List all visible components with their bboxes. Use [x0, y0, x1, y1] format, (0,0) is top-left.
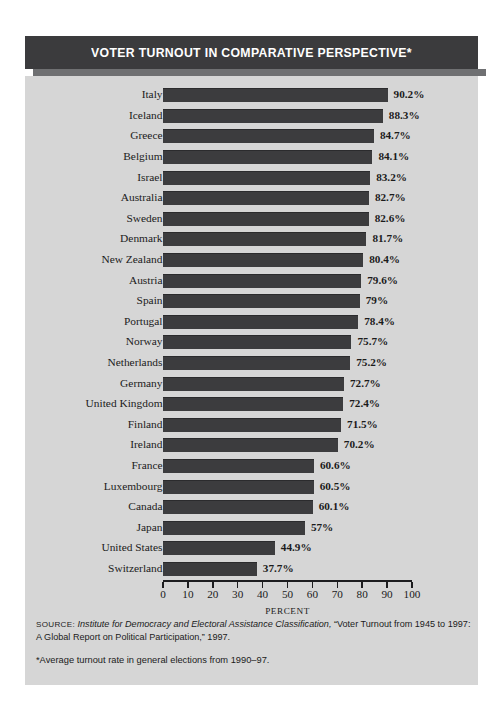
bar-value-label: 84.1% — [378, 151, 409, 162]
bar — [163, 438, 338, 452]
category-label: Finland — [128, 419, 163, 430]
bar-value-label: 72.4% — [349, 399, 380, 410]
bar-row: Finland71.5% — [25, 415, 478, 436]
bar-row: Australia82.7% — [25, 188, 478, 209]
source-publication: Institute for Democracy and Electoral As… — [78, 619, 332, 629]
title-banner-shadow — [33, 69, 486, 76]
category-label: Ireland — [130, 440, 162, 451]
category-label: Iceland — [129, 110, 163, 121]
bar-row: Netherlands75.2% — [25, 353, 478, 374]
category-label: Australia — [121, 193, 163, 204]
bar-value-label: 81.7% — [372, 234, 403, 245]
bar-row: Austria79.6% — [25, 270, 478, 291]
bar-value-label: 82.6% — [375, 213, 406, 224]
bar — [163, 171, 370, 185]
bar — [163, 191, 369, 205]
bar-value-label: 44.9% — [281, 543, 312, 554]
bar-row: Sweden82.6% — [25, 209, 478, 230]
axis-tick-label: 80 — [357, 589, 368, 600]
bar-value-label: 84.7% — [380, 131, 411, 142]
bar-row: Canada60.1% — [25, 497, 478, 518]
bar-row: Germany72.7% — [25, 373, 478, 394]
axis-tick-label: 100 — [404, 589, 421, 600]
axis-tick-label: 70 — [332, 589, 343, 600]
category-label: Greece — [130, 131, 162, 142]
bar-row: France60.6% — [25, 456, 478, 477]
axis-tick-label: 20 — [207, 589, 218, 600]
category-label: Portugal — [124, 316, 163, 327]
category-label: Belgium — [123, 151, 162, 162]
footnote: *Average turnout rate in general electio… — [36, 654, 474, 667]
axis-tick-label: 30 — [232, 589, 243, 600]
category-label: Netherlands — [107, 357, 162, 368]
bar-row: Spain79% — [25, 291, 478, 312]
bar — [163, 500, 313, 514]
bar — [163, 480, 314, 494]
bar — [163, 294, 360, 308]
category-label: Luxembourg — [104, 481, 163, 492]
bar — [163, 541, 275, 555]
category-label: Norway — [126, 337, 163, 348]
bar — [163, 212, 369, 226]
notes-block: SOURCE: Institute for Democracy and Elec… — [36, 618, 474, 668]
bar-value-label: 71.5% — [347, 419, 378, 430]
plot-area: Italy90.2%Iceland88.3%Greece84.7%Belgium… — [25, 76, 478, 685]
category-label: Spain — [137, 296, 163, 307]
axis-tick-label: 90 — [382, 589, 393, 600]
bar-row: Iceland88.3% — [25, 106, 478, 127]
bar — [163, 232, 366, 246]
bar — [163, 356, 350, 370]
figure-voter-turnout: VOTER TURNOUT IN COMPARATIVE PERSPECTIVE… — [0, 0, 502, 710]
bar-value-label: 70.2% — [344, 440, 375, 451]
bar — [163, 562, 257, 576]
axis-tick-label: 40 — [257, 589, 268, 600]
bar-value-label: 60.6% — [320, 460, 351, 471]
category-label: Italy — [142, 90, 163, 101]
category-label: France — [132, 460, 163, 471]
bar-value-label: 80.4% — [369, 254, 400, 265]
bar — [163, 129, 374, 143]
bar-value-label: 75.7% — [357, 337, 388, 348]
axis-tick-label: 10 — [182, 589, 193, 600]
axis-tick-label: 60 — [307, 589, 318, 600]
bar-row: Portugal78.4% — [25, 312, 478, 333]
bar-row: Luxembourg60.5% — [25, 476, 478, 497]
bar-row: Belgium84.1% — [25, 147, 478, 168]
bar-value-label: 90.2% — [394, 90, 425, 101]
category-label: United States — [101, 543, 162, 554]
bar-value-label: 60.1% — [319, 502, 350, 513]
category-label: Switzerland — [108, 563, 162, 574]
bar-row: United States44.9% — [25, 538, 478, 559]
bar-value-label: 82.7% — [375, 193, 406, 204]
bar-value-label: 88.3% — [389, 110, 420, 121]
category-label: Canada — [128, 502, 162, 513]
x-axis-title: PERCENT — [163, 606, 412, 616]
source-note: SOURCE: Institute for Democracy and Elec… — [36, 618, 474, 644]
bar-row: New Zealand80.4% — [25, 250, 478, 271]
bar-value-label: 79% — [366, 296, 388, 307]
bar-row: Israel83.2% — [25, 167, 478, 188]
bar-row: Norway75.7% — [25, 332, 478, 353]
bar — [163, 521, 305, 535]
bar — [163, 109, 383, 123]
bar-row: Japan57% — [25, 518, 478, 539]
category-label: Denmark — [120, 234, 162, 245]
bar-value-label: 79.6% — [367, 275, 398, 286]
axis-tick-label: 0 — [160, 589, 166, 600]
bar-value-label: 57% — [311, 522, 333, 533]
bar-row: United Kingdom72.4% — [25, 394, 478, 415]
bar-value-label: 83.2% — [376, 172, 407, 183]
bar-value-label: 72.7% — [350, 378, 381, 389]
chart-title-banner: VOTER TURNOUT IN COMPARATIVE PERSPECTIVE… — [25, 36, 478, 69]
bar-row: Italy90.2% — [25, 85, 478, 106]
bar-value-label: 60.5% — [320, 481, 351, 492]
bar — [163, 377, 344, 391]
bar — [163, 315, 358, 329]
bar-row: Greece84.7% — [25, 126, 478, 147]
bar — [163, 274, 361, 288]
bar-value-label: 78.4% — [364, 316, 395, 327]
category-label: Japan — [137, 522, 163, 533]
bar — [163, 150, 372, 164]
category-label: Germany — [120, 378, 162, 389]
axis-tick-label: 50 — [282, 589, 293, 600]
